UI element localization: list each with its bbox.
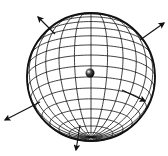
sphere-diagram bbox=[0, 0, 168, 156]
wireframe-sphere-with-arrows bbox=[0, 0, 168, 156]
arrow-lower-left bbox=[5, 102, 40, 120]
center-point-marker bbox=[86, 69, 95, 78]
arrow-upper-right bbox=[140, 23, 164, 40]
